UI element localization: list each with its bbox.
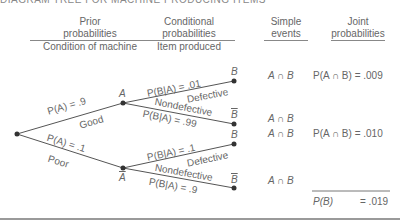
simple-event-4: A ∩ B <box>268 175 294 186</box>
label-node-bbar2: B <box>231 174 238 185</box>
simple-event-1: A ∩ B <box>268 70 294 81</box>
node-bbar1 <box>232 122 237 127</box>
root-node <box>15 132 20 137</box>
total-value: = .019 <box>360 196 388 207</box>
label-node-abar: A <box>119 172 126 183</box>
simple-event-3: A ∩ B <box>268 128 294 139</box>
bottom-rule <box>0 218 400 220</box>
joint-prob-1: P(A ∩ B) = .009 <box>313 70 383 81</box>
node-bbar2 <box>232 186 237 191</box>
total-label: P(B) <box>313 196 333 207</box>
label-node-b2: B <box>231 129 238 140</box>
joint-prob-2: P(A ∩ B) = .010 <box>313 128 383 139</box>
node-b2 <box>232 142 237 147</box>
node-a <box>121 101 126 106</box>
label-node-bbar1: B <box>231 109 238 120</box>
node-abar <box>121 166 126 171</box>
label-node-a: A <box>119 88 126 99</box>
node-b1 <box>232 79 237 84</box>
simple-event-2: A ∩ B <box>268 113 294 124</box>
label-node-b1: B <box>231 66 238 77</box>
